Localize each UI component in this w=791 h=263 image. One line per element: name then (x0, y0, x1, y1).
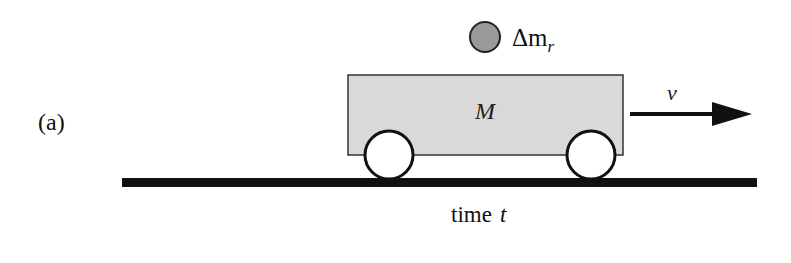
panel-label: (a) (38, 109, 65, 135)
left-wheel (365, 131, 413, 179)
velocity-arrow-head-icon (712, 102, 752, 126)
time-caption: timet (451, 202, 507, 227)
ground-line (122, 178, 757, 187)
particle-mass-icon (470, 22, 500, 52)
particle-label: Δmr (512, 24, 555, 56)
cart-mass-label: M (474, 98, 497, 124)
right-wheel (567, 131, 615, 179)
cart-diagram: (a) Δmr M v timet (0, 0, 791, 263)
velocity-label: v (667, 80, 677, 105)
